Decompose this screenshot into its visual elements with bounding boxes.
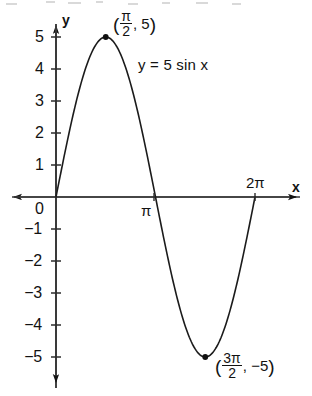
y-tick-label-minus-5: −5	[8, 349, 42, 365]
max-y-value: 5	[141, 15, 149, 32]
y-tick-label-2: 2	[10, 125, 44, 141]
max-point-marker	[103, 34, 109, 40]
y-tick-label-5: 5	[10, 29, 44, 45]
min-open-paren: (	[215, 356, 221, 377]
max-open-paren: (	[113, 14, 119, 35]
min-comma: ,	[243, 357, 247, 374]
min-point-label: (3π2, −5)	[215, 352, 275, 382]
x-tick-label-pi: π	[141, 203, 151, 218]
min-close-paren: )	[268, 356, 274, 377]
min-y-value: −5	[251, 357, 268, 374]
min-point-marker	[202, 354, 208, 360]
y-tick-label-minus-3: −3	[8, 285, 42, 301]
y-tick-label-4: 4	[10, 61, 44, 77]
min-fraction-denominator: 2	[222, 366, 241, 381]
y-tick-label-minus-1: −1	[8, 221, 42, 237]
equation-label: y = 5 sin x	[138, 57, 208, 72]
max-comma: ,	[133, 15, 137, 32]
figure-canvas: 5 4 3 2 1 0 −1 −2 −3 −4 −5 y x π 2π y = …	[0, 0, 312, 396]
max-fraction: π2	[120, 9, 132, 39]
x-axis-label: x	[292, 180, 300, 194]
max-point-label: (π2, 5)	[113, 10, 156, 40]
max-fraction-denominator: 2	[120, 24, 132, 39]
y-tick-label-1: 1	[10, 157, 44, 173]
x-tick-label-two-pi: 2π	[246, 175, 265, 190]
max-close-paren: )	[150, 14, 156, 35]
y-tick-label-minus-4: −4	[8, 317, 42, 333]
origin-label: 0	[20, 201, 44, 217]
min-fraction: 3π2	[222, 351, 241, 381]
max-fraction-numerator: π	[120, 9, 132, 24]
y-axis-label: y	[62, 13, 70, 27]
min-fraction-numerator: 3π	[222, 351, 241, 366]
y-tick-label-minus-2: −2	[8, 253, 42, 269]
y-tick-label-3: 3	[10, 93, 44, 109]
